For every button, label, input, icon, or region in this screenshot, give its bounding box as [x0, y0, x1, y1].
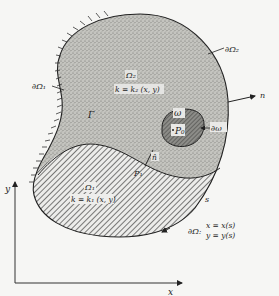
omega-label: ω [174, 108, 182, 118]
y-axis-label: y [4, 184, 11, 194]
p1-label: P₁ [133, 169, 143, 178]
d-omega-label: ∂ω [211, 124, 222, 133]
k2-formula: k = k₂ (x, y) [115, 85, 160, 94]
param-x: x = x(s) [206, 221, 235, 230]
gamma-label: Γ [87, 110, 95, 120]
omega1-label: Ω₁ [84, 183, 95, 192]
k1-formula: k = k₁ (x, y) [71, 195, 116, 204]
param-y: y = y(s) [205, 231, 235, 240]
arc-param-label: s [205, 195, 209, 204]
dOmega1-label: ∂Ω₁ [32, 82, 46, 91]
dOmega2-label: ∂Ω₂ [225, 45, 239, 54]
omega2-label: Ω₂ [125, 71, 136, 80]
outer-normal-label: n [260, 91, 265, 100]
boundary-parametrization: ∂Ω: x = x(s) y = y(s) [188, 221, 235, 240]
x-axis-label: x [168, 287, 173, 296]
p0-label: P₀ [174, 126, 185, 136]
hole-omega: ω P₀ [162, 108, 204, 147]
interface-normal-label: n̂ [152, 153, 157, 162]
domain-diagram: y x [0, 0, 279, 296]
svg-text:∂Ω:: ∂Ω: [188, 227, 202, 236]
